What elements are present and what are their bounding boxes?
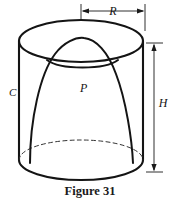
height-top-arrowhead: [151, 44, 156, 52]
paraboloid-label: P: [79, 81, 88, 95]
radius-left-arrowhead: [82, 8, 90, 13]
paraboloid-shape: [30, 38, 133, 163]
height-dimension: H: [146, 43, 169, 172]
figure-drawing: R H C P Figure 31: [0, 0, 178, 202]
cylinder-bottom-front-arc: [19, 160, 143, 180]
figure-container: R H C P Figure 31: [0, 0, 178, 202]
radius-label: R: [108, 4, 117, 18]
height-bottom-arrowhead: [151, 164, 156, 172]
radius-right-arrowhead: [137, 8, 145, 13]
cylinder-label: C: [9, 86, 17, 98]
height-label: H: [158, 96, 169, 110]
cylinder-top-ellipse: [19, 20, 143, 62]
paraboloid-outline: [30, 38, 133, 163]
radius-dimension: R: [81, 4, 145, 32]
cylinder-bottom-back-arc: [19, 140, 143, 160]
figure-caption: Figure 31: [65, 184, 116, 198]
